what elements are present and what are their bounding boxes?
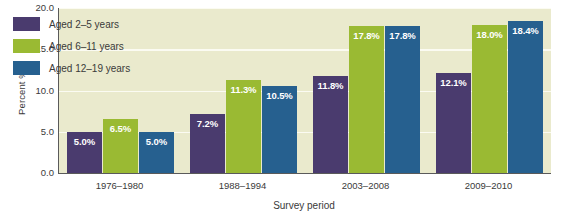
- y-axis-tick-label: 0.0: [14, 168, 54, 178]
- plot-area: 5.0%6.5%5.0%7.2%11.3%10.5%11.8%17.8%17.8…: [58, 8, 551, 174]
- bar-value-label: 11.8%: [318, 80, 344, 91]
- bar-group: 11.8%17.8%17.8%: [313, 8, 420, 173]
- legend-label: Aged 12–19 years: [49, 63, 130, 74]
- bar-value-label: 5.0%: [146, 136, 167, 147]
- bar[interactable]: 17.8%: [349, 26, 384, 173]
- legend-item[interactable]: Aged 12–19 years: [13, 57, 130, 79]
- legend-label: Aged 6–11 years: [49, 41, 124, 52]
- bar-value-label: 11.3%: [231, 84, 257, 95]
- x-axis-tick-labels: 1976–19801988–19942003–20082009–2010: [58, 180, 550, 194]
- bar[interactable]: 5.0%: [139, 132, 174, 173]
- bar[interactable]: 10.5%: [262, 86, 297, 173]
- bar-group: 12.1%18.0%18.4%: [436, 8, 543, 173]
- bar[interactable]: 6.5%: [103, 119, 138, 173]
- bar[interactable]: 18.4%: [508, 21, 543, 173]
- bar-value-label: 10.5%: [266, 90, 292, 101]
- bar[interactable]: 17.8%: [385, 26, 420, 173]
- bar-value-label: 18.4%: [512, 25, 538, 36]
- legend-label: Aged 2–5 years: [49, 19, 119, 30]
- legend-item[interactable]: Aged 6–11 years: [13, 35, 130, 57]
- x-axis-tick-label: 1976–1980: [96, 180, 144, 191]
- legend-swatch: [13, 39, 40, 53]
- x-axis-tick-label: 2003–2008: [342, 180, 390, 191]
- bar-chart: Percent % 0.05.010.015.020.0 5.0%6.5%5.0…: [0, 0, 564, 223]
- bar-value-label: 17.8%: [353, 30, 379, 41]
- bar-value-label: 17.8%: [389, 30, 415, 41]
- bar-group: 7.2%11.3%10.5%: [190, 8, 297, 173]
- legend-swatch: [13, 17, 40, 31]
- bar-value-label: 5.0%: [74, 136, 95, 147]
- legend-swatch: [13, 61, 40, 75]
- y-axis-tick-label: 20.0: [14, 3, 54, 13]
- y-axis-tick-label: 5.0: [14, 127, 54, 137]
- y-axis-tick-label: 10.0: [14, 86, 54, 96]
- x-axis-tick-label: 1988–1994: [219, 180, 267, 191]
- bar-value-label: 7.2%: [197, 118, 218, 129]
- bar-value-label: 12.1%: [440, 77, 466, 88]
- legend-item[interactable]: Aged 2–5 years: [13, 13, 130, 35]
- bar[interactable]: 11.3%: [226, 80, 261, 173]
- bars-layer: 5.0%6.5%5.0%7.2%11.3%10.5%11.8%17.8%17.8…: [59, 8, 551, 173]
- bar[interactable]: 7.2%: [190, 114, 225, 173]
- bar-value-label: 18.0%: [476, 29, 502, 40]
- bar[interactable]: 5.0%: [67, 132, 102, 173]
- x-axis-tick-label: 2009–2010: [465, 180, 513, 191]
- legend: Aged 2–5 yearsAged 6–11 yearsAged 12–19 …: [13, 13, 130, 79]
- bar-value-label: 6.5%: [110, 123, 131, 134]
- bar[interactable]: 12.1%: [436, 73, 471, 173]
- bar[interactable]: 11.8%: [313, 76, 348, 173]
- x-axis-title: Survey period: [58, 200, 550, 211]
- bar[interactable]: 18.0%: [472, 25, 507, 174]
